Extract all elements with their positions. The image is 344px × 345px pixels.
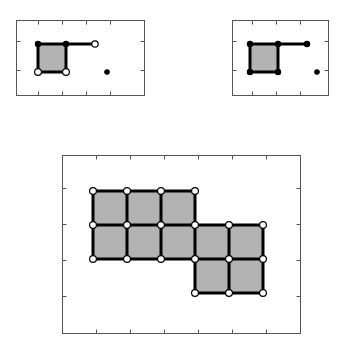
panel-bottom-cell: [229, 259, 263, 293]
panel-bottom-vertex-open: [192, 256, 199, 263]
panel-bottom-vertex-open: [90, 256, 97, 263]
panel-bottom: [63, 156, 301, 334]
panel-bottom-cell: [195, 259, 229, 293]
panel-top-left-vertex-open: [35, 69, 42, 76]
panel-bottom-cell: [127, 191, 161, 225]
panel-top-left-vertex-solid: [35, 41, 40, 46]
panel-bottom-vertex-open: [158, 222, 165, 229]
panel-bottom-cell: [93, 225, 127, 259]
panel-top-right-frame: [233, 21, 329, 96]
panel-bottom-vertex-open: [90, 188, 97, 195]
panel-bottom-vertex-open: [90, 222, 97, 229]
panel-top-left-arm-endpoint: [92, 41, 98, 47]
panel-bottom-vertex-open: [192, 290, 199, 297]
panel-top-left-vertex-solid: [63, 41, 68, 46]
panel-bottom-vertex-open: [260, 256, 267, 263]
panel-top-left-isolated-point: [104, 69, 110, 75]
panel-bottom-vertex-open: [226, 290, 233, 297]
panel-bottom-cell: [161, 191, 195, 225]
panel-top-right-vertex-solid: [275, 69, 280, 74]
panel-top-left-cell: [38, 44, 66, 72]
panel-bottom-cell: [93, 191, 127, 225]
panel-bottom-vertex-open: [226, 256, 233, 263]
panel-bottom-vertex-open: [192, 188, 199, 195]
diagram-canvas: [0, 0, 344, 345]
panel-top-right-vertex-solid: [275, 41, 280, 46]
panel-bottom-cell: [161, 225, 195, 259]
panel-bottom-vertex-open: [124, 188, 131, 195]
panel-bottom-vertex-open: [260, 290, 267, 297]
panel-bottom-vertex-open: [260, 222, 267, 229]
panel-top-left-frame: [17, 21, 145, 96]
panel-top-right-vertex-solid: [247, 69, 252, 74]
geometric-figure-svg: [0, 0, 344, 345]
panel-bottom-cell: [127, 225, 161, 259]
panel-bottom-cell: [229, 225, 263, 259]
panel-bottom-vertex-open: [226, 222, 233, 229]
panel-top-right-vertex-solid: [247, 41, 252, 46]
panel-bottom-vertex-open: [158, 256, 165, 263]
panel-top-right-cell: [250, 44, 278, 72]
panel-bottom-vertex-open: [124, 256, 131, 263]
panel-top-right-arm-endpoint: [304, 41, 309, 46]
panel-bottom-vertex-open: [158, 188, 165, 195]
panel-top-right-isolated-point: [314, 69, 320, 75]
panel-bottom-cell: [195, 225, 229, 259]
panel-top-left-vertex-open: [63, 69, 70, 76]
panel-top-left: [17, 21, 145, 96]
panel-top-right: [233, 21, 329, 96]
panel-bottom-vertex-open: [124, 222, 131, 229]
panel-bottom-vertex-open: [192, 222, 199, 229]
